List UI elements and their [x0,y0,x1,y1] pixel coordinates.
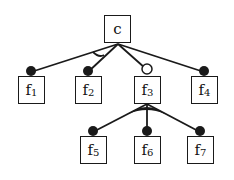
node-subscript: 7 [200,147,206,158]
node-f4: f4 [191,76,218,104]
mandatory-dot-icon [88,126,98,136]
node-subscript: 2 [88,87,94,98]
node-subscript: 4 [204,87,210,98]
mandatory-dot-icon [142,126,152,136]
node-f5: f5 [80,136,107,164]
node-f1: f1 [18,76,45,104]
edge-f3-f5 [93,104,147,132]
node-f2: f2 [75,76,102,104]
mandatory-dot-icon [26,66,36,76]
node-f7: f7 [187,136,214,164]
node-f3: f3 [134,76,161,104]
node-f6: f6 [134,136,161,164]
mandatory-dot-icon [199,66,209,76]
edge-c-f4 [118,44,204,72]
node-c: c [104,15,131,43]
edge-c-f1 [31,44,118,72]
edge-f3-f7 [147,104,200,132]
alternative-group-arc [93,52,104,56]
node-subscript: 1 [31,87,37,98]
node-label: c [113,20,121,38]
mandatory-dot-icon [195,126,205,136]
node-subscript: 6 [147,147,153,158]
optional-dot-icon [142,64,152,74]
mandatory-dot-icon [83,66,93,76]
node-subscript: 3 [147,87,153,98]
node-subscript: 5 [93,147,99,158]
